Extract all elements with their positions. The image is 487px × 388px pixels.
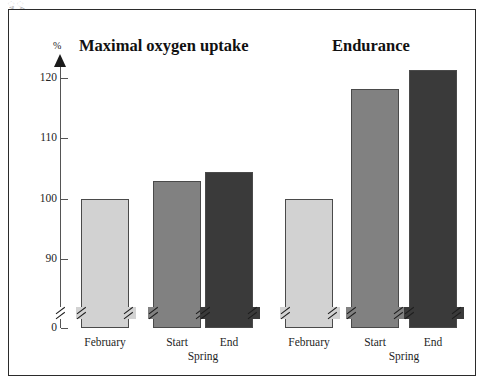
break-mask-6b — [451, 307, 464, 319]
break-mask-4a — [280, 307, 293, 319]
y-tick-label-0: 0 — [15, 321, 57, 333]
xtick-endurance-february: February — [275, 336, 343, 348]
break-mask-4b — [327, 307, 340, 319]
break-mask-1a — [76, 307, 89, 319]
break-mask-3b — [247, 307, 260, 319]
xtick-oxygen-february: February — [71, 336, 139, 348]
y-axis-break-mask — [55, 307, 68, 319]
y-tick-label-110-wrap: 110 — [9, 138, 57, 152]
break-mask-1b — [123, 307, 136, 319]
chart-screenshot: ુ ૂ % 120 110 100 90 — [0, 0, 487, 388]
bar-endurance-start[interactable] — [351, 89, 399, 328]
chart-title-2: Endurance — [332, 36, 410, 56]
y-tick-100 — [61, 199, 68, 200]
y-tick-120 — [61, 78, 68, 79]
break-mask-2a — [148, 307, 161, 319]
y-tick-label-90: 90 — [15, 252, 57, 264]
y-axis-line — [60, 61, 61, 328]
bar-oxygen-start[interactable] — [153, 181, 201, 328]
xtick-oxygen-end: End — [195, 336, 263, 348]
break-mask-3a — [200, 307, 213, 319]
y-tick-90 — [61, 259, 68, 260]
y-tick-label-100: 100 — [15, 192, 57, 204]
break-mask-6a — [404, 307, 417, 319]
chart-title-1: Maximal oxygen uptake — [79, 36, 249, 56]
figure-frame: % 120 110 100 90 0 — [8, 9, 476, 376]
y-tick-label-100-wrap: 100 — [9, 199, 57, 213]
y-tick-label-120-wrap: 120 — [9, 78, 57, 92]
bar-endurance-end[interactable] — [409, 70, 457, 328]
xaxis-label-endurance-spring: Spring — [370, 350, 438, 362]
bar-oxygen-end[interactable] — [205, 172, 253, 328]
xtick-endurance-end: End — [399, 336, 467, 348]
plot-area: % 120 110 100 90 0 — [9, 10, 477, 377]
y-axis-arrow-icon — [54, 54, 66, 67]
break-mask-5a — [346, 307, 359, 319]
y-tick-label-110: 110 — [15, 131, 57, 143]
xaxis-label-oxygen-spring: Spring — [169, 350, 237, 362]
y-tick-label-120: 120 — [15, 71, 57, 83]
y-tick-110 — [61, 138, 68, 139]
y-tick-label-0-wrap: 0 — [9, 328, 57, 342]
y-tick-0 — [61, 328, 68, 329]
y-axis-unit-label: % — [53, 40, 61, 51]
y-tick-label-90-wrap: 90 — [9, 259, 57, 273]
